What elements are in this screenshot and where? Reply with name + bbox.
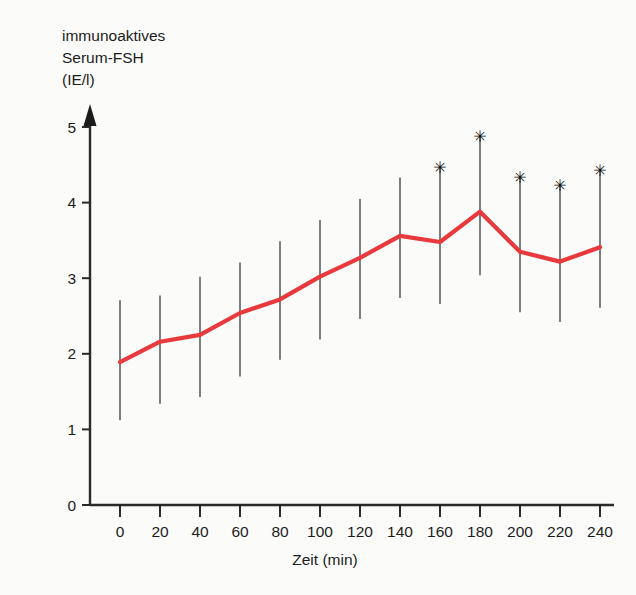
y-tick-label-1: 1: [67, 421, 76, 438]
fsh-time-course-chart: immunoaktives Serum-FSH (IE/l) 0 1 2 3 4…: [0, 0, 636, 595]
x-tick-label-2: 40: [191, 523, 209, 540]
x-tick-label-10: 200: [507, 523, 533, 540]
x-tick-label-0: 0: [116, 523, 125, 540]
y-tick-label-3: 3: [67, 270, 76, 287]
x-axis-title: Zeit (min): [292, 551, 357, 568]
x-tick-label-7: 140: [387, 523, 413, 540]
x-tick-label-9: 180: [467, 523, 493, 540]
x-tick-label-1: 20: [151, 523, 169, 540]
significance-asterisk-200: ✳: [513, 168, 526, 187]
significance-asterisk-160: ✳: [433, 158, 446, 177]
figure-container: immunoaktives Serum-FSH (IE/l) 0 1 2 3 4…: [0, 0, 636, 595]
x-tick-label-4: 80: [271, 523, 289, 540]
y-tick-label-2: 2: [67, 345, 76, 362]
x-tick-label-12: 240: [587, 523, 613, 540]
significance-asterisk-220: ✳: [553, 176, 566, 195]
y-tick-label-5: 5: [67, 119, 76, 136]
x-tick-label-8: 160: [427, 523, 453, 540]
y-axis-title-line-1: immunoaktives: [62, 27, 166, 44]
x-tick-label-3: 60: [231, 523, 249, 540]
y-axis-title-line-3: (IE/l): [62, 71, 95, 88]
y-tick-label-0: 0: [67, 497, 76, 514]
y-axis-title-line-2: Serum-FSH: [62, 49, 144, 66]
x-tick-label-11: 220: [547, 523, 573, 540]
x-tick-label-6: 120: [347, 523, 373, 540]
significance-asterisk-180: ✳: [473, 127, 486, 146]
y-tick-label-4: 4: [67, 194, 76, 211]
significance-asterisk-240: ✳: [593, 161, 606, 180]
x-tick-label-5: 100: [307, 523, 333, 540]
